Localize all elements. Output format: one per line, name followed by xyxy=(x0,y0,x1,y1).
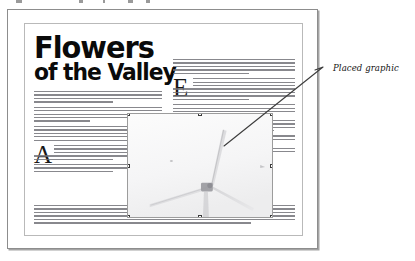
text-line xyxy=(173,66,295,67)
resize-handle-top-right[interactable] xyxy=(270,113,273,116)
text-line xyxy=(173,108,295,109)
text-line xyxy=(173,92,295,93)
resize-handle-bottom-left[interactable] xyxy=(127,215,130,218)
text-line xyxy=(173,95,295,96)
text-line xyxy=(193,85,295,86)
text-line xyxy=(173,69,295,70)
masthead-line-2: of the Valley xyxy=(34,62,175,82)
paragraph-with-dropcap: E xyxy=(173,78,295,100)
text-line xyxy=(34,222,251,223)
resize-handle-bottom-right[interactable] xyxy=(270,215,273,218)
placed-graphic-frame[interactable] xyxy=(127,113,273,218)
text-line xyxy=(34,171,113,172)
text-line xyxy=(173,104,295,105)
text-line xyxy=(34,159,113,160)
wind-turbine-image xyxy=(128,114,272,217)
text-line xyxy=(34,110,162,111)
text-line xyxy=(193,82,295,83)
text-line xyxy=(173,62,295,63)
page-sheet[interactable]: Flowers of the Valley xyxy=(24,23,303,236)
text-line xyxy=(34,219,295,220)
paragraph xyxy=(173,59,295,74)
text-line xyxy=(173,88,295,89)
text-line xyxy=(173,99,249,100)
text-line xyxy=(34,94,162,95)
masthead-line-1: Flowers xyxy=(34,34,175,61)
resize-handle-bottom-center[interactable] xyxy=(198,215,202,218)
text-line xyxy=(34,98,162,99)
text-line xyxy=(34,107,162,108)
annotation-label-placed-graphic: Placed graphic xyxy=(333,63,399,73)
text-line xyxy=(173,59,295,60)
top-edge-artifacts xyxy=(0,0,415,5)
resize-handle-top-center[interactable] xyxy=(198,113,202,116)
resize-handle-top-left[interactable] xyxy=(127,113,130,116)
resize-handle-middle-left[interactable] xyxy=(127,164,130,168)
dropcap-body xyxy=(193,78,295,86)
resize-handle-middle-right[interactable] xyxy=(270,164,273,168)
document-window[interactable]: Flowers of the Valley xyxy=(7,9,318,249)
paragraph xyxy=(34,91,162,103)
text-line xyxy=(34,120,90,121)
page-content-area: Flowers of the Valley xyxy=(34,31,293,228)
masthead: Flowers of the Valley xyxy=(34,34,186,82)
text-line xyxy=(193,78,295,79)
text-line xyxy=(34,101,113,102)
text-line xyxy=(34,91,162,92)
